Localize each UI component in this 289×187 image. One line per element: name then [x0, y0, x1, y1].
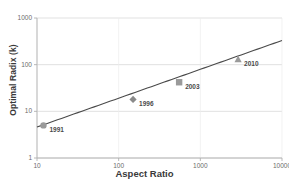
gridlines-group	[37, 18, 282, 158]
axes-group	[34, 18, 282, 161]
chart-plot-svg	[0, 0, 289, 187]
y-axis-title-text: Optimal Radix (k)	[8, 44, 18, 116]
marker-square	[176, 79, 182, 85]
data-line-series	[37, 40, 282, 127]
data-point-label-1991: 1991	[49, 126, 63, 133]
data-point-label-2010: 2010	[244, 60, 258, 67]
y-axis-title: Optimal Radix (k)	[2, 0, 24, 160]
x-axis-title: Aspect Ratio	[0, 168, 289, 179]
chart-container: 1101001000 10100100010000 19911996200320…	[0, 0, 289, 187]
marker-diamond	[129, 96, 136, 103]
data-point-label-1996: 1996	[139, 100, 153, 107]
data-point-markers	[40, 56, 241, 129]
data-point-label-2003: 2003	[185, 83, 199, 90]
trend-line	[37, 40, 282, 127]
marker-circle	[40, 122, 46, 128]
